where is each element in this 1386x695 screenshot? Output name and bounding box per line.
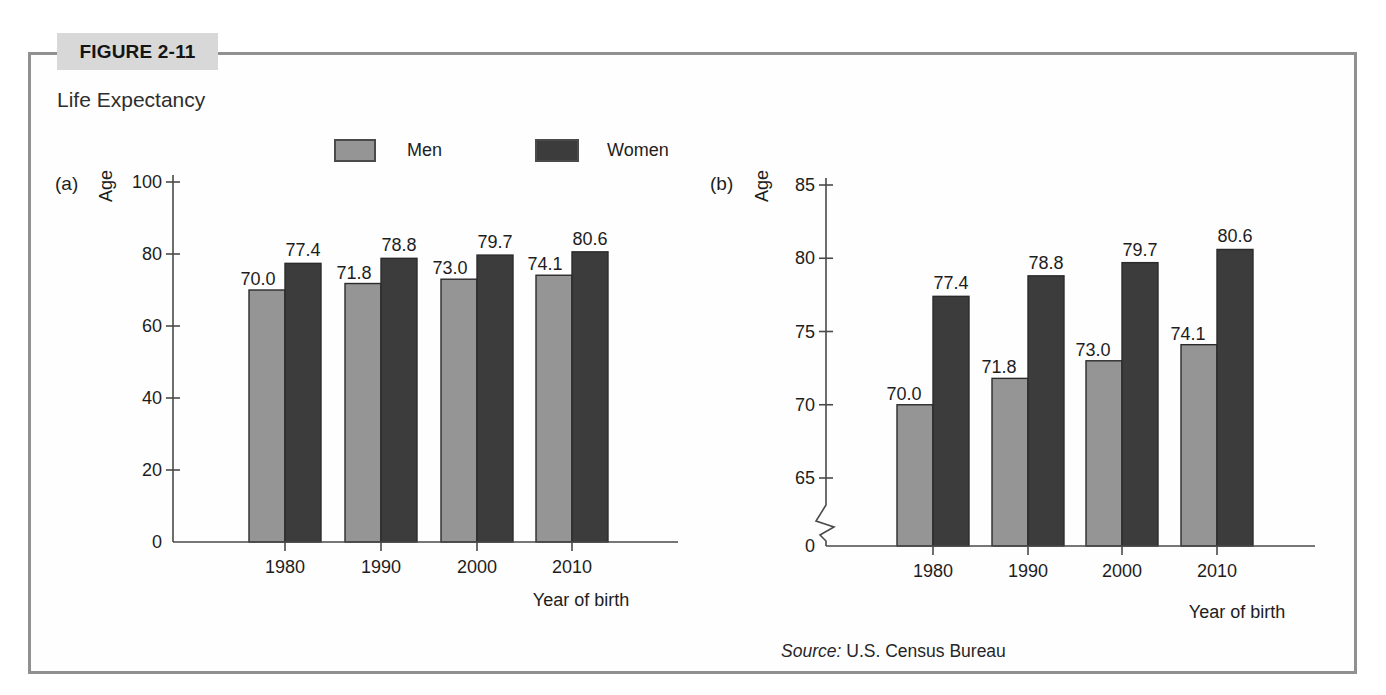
legend-men-swatch [334,139,376,162]
figure-label-text: FIGURE 2-11 [79,41,195,62]
source-text: U.S. Census Bureau [846,641,1006,661]
legend-women-label: Women [607,138,669,162]
source-note: Source:U.S. Census Bureau [781,641,1006,662]
figure-title: Life Expectancy [57,88,205,112]
figure-label: FIGURE 2-11 [57,33,218,70]
legend-men-label: Men [407,138,442,162]
source-prefix: Source: [781,641,841,661]
legend-women-swatch [535,139,579,162]
figure-frame [28,52,1357,674]
page: FIGURE 2-11 Life Expectancy Men Women 70… [0,0,1386,695]
